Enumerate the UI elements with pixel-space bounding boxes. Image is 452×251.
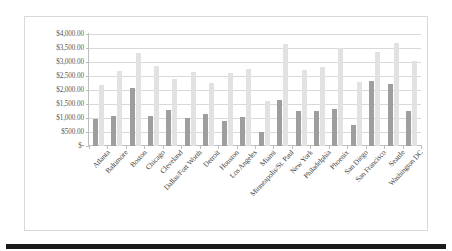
y-axis-tick-label: $2,500.00 (56, 72, 84, 80)
bar-group[interactable] (200, 34, 218, 146)
bar-group[interactable] (402, 34, 420, 146)
bar-series-2[interactable] (338, 48, 343, 146)
bar-series-2[interactable] (394, 43, 399, 146)
bar-series-1[interactable] (240, 117, 245, 146)
bar-group[interactable] (218, 34, 236, 146)
x-axis-tickmark (421, 146, 422, 149)
bar-group[interactable] (384, 34, 402, 146)
bar-series-2[interactable] (246, 69, 251, 146)
y-axis-tick-label: $3,000.00 (56, 58, 84, 66)
y-axis-tickmark (86, 90, 89, 91)
bar-series-1[interactable] (369, 81, 374, 146)
bar-group[interactable] (255, 34, 273, 146)
bar-series-2[interactable] (136, 53, 141, 146)
bar-series-1[interactable] (185, 118, 190, 146)
bar-series-2[interactable] (209, 83, 214, 146)
bar-group[interactable] (107, 34, 125, 146)
y-axis-tickmark (86, 104, 89, 105)
y-axis-tickmark (86, 76, 89, 77)
bar-series-1[interactable] (314, 111, 319, 146)
bar-series-2[interactable] (265, 101, 270, 146)
bar-series-2[interactable] (375, 52, 380, 146)
bar-series-1[interactable] (332, 109, 337, 146)
bar-series-2[interactable] (228, 73, 233, 146)
bar-series-1[interactable] (277, 100, 282, 146)
bar-group[interactable] (366, 34, 384, 146)
chart-frame: $4,000.00$3,500.00$3,000.00$2,500.00$2,0… (24, 16, 428, 231)
y-axis-tick-label: $- (78, 142, 84, 150)
y-axis-tickmark (86, 146, 89, 147)
bar-group[interactable] (310, 34, 328, 146)
bar-group[interactable] (89, 34, 107, 146)
bar-series-2[interactable] (99, 85, 104, 146)
bar-group[interactable] (292, 34, 310, 146)
bar-series-layer (89, 34, 421, 146)
bar-series-1[interactable] (166, 110, 171, 146)
bar-series-2[interactable] (154, 66, 159, 146)
bar-group[interactable] (347, 34, 365, 146)
y-axis-tick-label: $1,500.00 (56, 100, 84, 108)
bar-series-2[interactable] (117, 71, 122, 146)
bottom-rule (6, 244, 446, 249)
bar-group[interactable] (163, 34, 181, 146)
bar-group[interactable] (273, 34, 291, 146)
bar-series-2[interactable] (191, 72, 196, 146)
y-axis-tickmark (86, 132, 89, 133)
bar-series-1[interactable] (259, 132, 264, 146)
bar-series-1[interactable] (222, 121, 227, 146)
plot-area (89, 34, 421, 146)
bar-series-2[interactable] (302, 70, 307, 146)
y-axis-tickmark (86, 62, 89, 63)
bar-series-1[interactable] (296, 111, 301, 146)
bar-series-1[interactable] (130, 88, 135, 146)
bar-series-1[interactable] (388, 84, 393, 146)
y-axis-tick-label: $4,000.00 (56, 30, 84, 38)
bar-series-1[interactable] (111, 116, 116, 146)
bar-series-2[interactable] (320, 67, 325, 146)
y-axis-tickmark (86, 118, 89, 119)
bar-series-1[interactable] (148, 116, 153, 146)
y-axis-tick-label: $3,500.00 (56, 44, 84, 52)
bar-series-2[interactable] (172, 79, 177, 146)
y-axis-tickmark (86, 34, 89, 35)
y-axis: $4,000.00$3,500.00$3,000.00$2,500.00$2,0… (25, 17, 88, 232)
bar-series-1[interactable] (406, 111, 411, 146)
bar-group[interactable] (237, 34, 255, 146)
y-axis-tick-label: $1,000.00 (56, 114, 84, 122)
bar-series-2[interactable] (412, 61, 417, 146)
bar-series-2[interactable] (357, 82, 362, 146)
y-axis-tickmark (86, 48, 89, 49)
y-axis-tick-label: $500.00 (61, 128, 84, 136)
bar-group[interactable] (126, 34, 144, 146)
y-axis-tick-label: $2,000.00 (56, 86, 84, 94)
bar-series-1[interactable] (351, 125, 356, 146)
bar-series-1[interactable] (203, 114, 208, 146)
bar-group[interactable] (181, 34, 199, 146)
bar-series-1[interactable] (93, 119, 98, 146)
chart-plot-wrapper: $4,000.00$3,500.00$3,000.00$2,500.00$2,0… (25, 17, 427, 230)
x-axis-category-labels: AtlantaBaltimoreBostonChicagoClevelandDa… (89, 148, 421, 228)
bar-group[interactable] (329, 34, 347, 146)
bar-series-2[interactable] (283, 44, 288, 146)
bar-group[interactable] (144, 34, 162, 146)
